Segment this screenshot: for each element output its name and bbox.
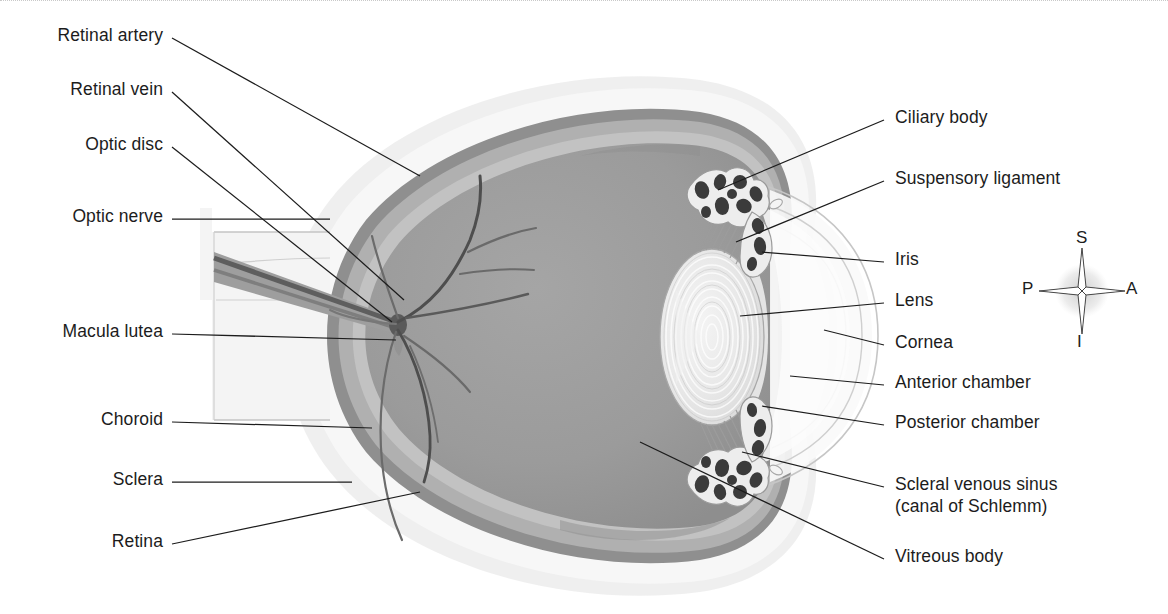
label-anterior-chamber: Anterior chamber (895, 371, 1031, 393)
label-ciliary-body: Ciliary body (895, 106, 988, 128)
eye-anatomy-figure: Retinal artery Retinal vein Optic disc O… (0, 0, 1168, 614)
eye-cross-section-illustration (0, 0, 1168, 614)
leader-retinal-artery (172, 38, 420, 176)
label-lens: Lens (895, 289, 933, 311)
label-retina: Retina (0, 530, 163, 552)
label-optic-disc: Optic disc (0, 133, 163, 155)
label-suspensory-ligament: Suspensory ligament (895, 167, 1060, 189)
label-macula-lutea: Macula lutea (0, 320, 163, 342)
orientation-compass-rose (1039, 248, 1125, 334)
label-canal-of-schlemm: (canal of Schlemm) (895, 495, 1048, 517)
compass-label-anterior: A (1126, 279, 1137, 299)
label-choroid: Choroid (0, 408, 163, 430)
label-retinal-artery: Retinal artery (0, 24, 163, 46)
label-sclera: Sclera (0, 468, 163, 490)
label-posterior-chamber: Posterior chamber (895, 411, 1040, 433)
label-cornea: Cornea (895, 331, 953, 353)
label-iris: Iris (895, 248, 919, 270)
label-vitreous-body: Vitreous body (895, 545, 1003, 567)
label-optic-nerve: Optic nerve (0, 205, 163, 227)
compass-label-posterior: P (1022, 279, 1033, 299)
compass-label-superior: S (1076, 228, 1087, 248)
label-retinal-vein: Retinal vein (0, 78, 163, 100)
compass-label-inferior: I (1077, 332, 1082, 352)
optic-nerve-sheath (200, 208, 330, 420)
label-scleral-venous-sinus: Scleral venous sinus (895, 473, 1058, 495)
